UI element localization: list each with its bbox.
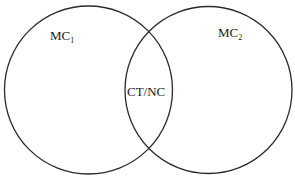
venn-diagram: MC1 MC2 CT/NC: [0, 0, 295, 188]
set-label-mc1: MC1: [50, 28, 74, 45]
set-label-mc2: MC2: [218, 25, 242, 42]
intersection-label: CT/NC: [127, 84, 165, 99]
